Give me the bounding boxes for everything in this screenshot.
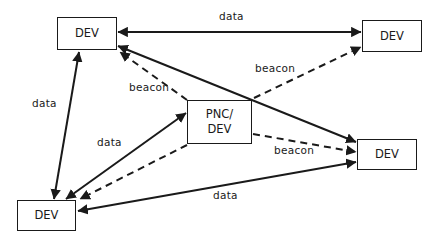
node-dev-top-right: DEV [362,20,422,52]
edge-dashed-pnc-bottom-left [80,145,187,199]
label-beacon-top-left: beacon [129,81,169,93]
label-data-left: data [32,97,57,109]
node-label: DEV [375,147,399,162]
label-beacon-mid-right: beacon [274,144,314,156]
node-label: DEV [75,26,99,41]
node-label: DEV [35,208,59,223]
node-dev-bottom-left: DEV [17,200,76,231]
edge-data-left [54,52,79,199]
label-data-bottom: data [213,189,238,201]
edge-data-bottom [78,162,356,211]
node-label: DEV [380,29,404,44]
edge-data-center [66,113,186,199]
label-data-top: data [219,10,244,22]
node-dev-mid-right: DEV [357,139,417,170]
network-diagram: DEV DEV PNC/ DEV DEV DEV data data data … [0,0,434,247]
label-beacon-top-right: beacon [255,62,295,74]
label-data-center: data [97,136,122,148]
node-dev-top-left: DEV [57,17,117,50]
node-pnc-dev: PNC/ DEV [187,100,252,144]
node-label: PNC/ DEV [206,107,233,137]
